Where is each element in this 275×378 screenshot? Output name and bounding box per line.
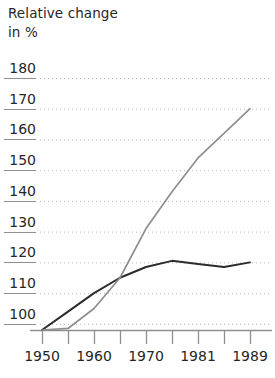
y-axis-label: 120	[2, 245, 36, 259]
y-axis-tick	[4, 262, 36, 263]
y-axis-tick	[4, 170, 36, 171]
y-axis-label: 130	[2, 215, 36, 229]
x-axis-label: 1989	[225, 349, 275, 363]
series-line-dark-line	[42, 261, 250, 330]
y-axis-label: 170	[2, 92, 36, 106]
y-axis-label: 150	[2, 153, 36, 167]
x-axis-label: 1970	[121, 349, 171, 363]
series-line-gray-line	[42, 109, 250, 330]
y-axis-label: 160	[2, 122, 36, 136]
y-axis-label: 180	[2, 61, 36, 75]
chart-plot-area	[0, 0, 275, 378]
x-axis-label: 1960	[69, 349, 119, 363]
y-axis-label: 110	[2, 276, 36, 290]
y-axis-tick	[4, 201, 36, 202]
y-axis-tick	[4, 78, 36, 79]
chart-root: Relative change in % 1801701601501401301…	[0, 0, 275, 378]
y-axis-tick	[4, 324, 36, 325]
y-axis-tick	[4, 139, 36, 140]
y-axis-tick	[4, 293, 36, 294]
y-axis-tick	[4, 109, 36, 110]
y-axis-label: 100	[2, 307, 36, 321]
x-axis-label: 1950	[17, 349, 67, 363]
x-axis-label: 1981	[173, 349, 223, 363]
y-axis-label: 140	[2, 184, 36, 198]
y-axis-tick	[4, 232, 36, 233]
